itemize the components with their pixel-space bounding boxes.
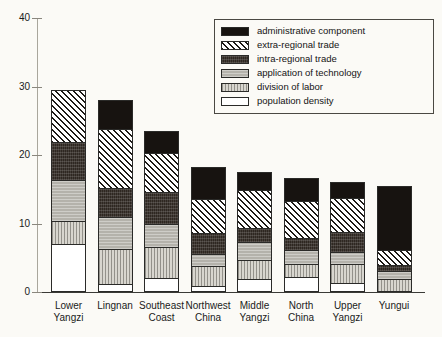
bar-segment-extra[interactable] [378, 251, 411, 266]
legend-label: intra-regional trade [257, 54, 337, 64]
bar-segment-technology[interactable] [192, 255, 225, 267]
legend-swatch-light-grey-lines [221, 83, 249, 92]
bar-segment-labor[interactable] [145, 248, 178, 278]
bar-yungui[interactable] [377, 186, 412, 292]
bar-segment-population[interactable] [145, 279, 178, 291]
y-axis-tick [32, 292, 42, 293]
legend-item-administrative-component[interactable]: administrative component [221, 24, 427, 38]
bar-segment-labor[interactable] [192, 267, 225, 287]
bar-segment-extra[interactable] [238, 191, 271, 229]
bar-upper-yangzi[interactable] [330, 182, 365, 292]
bar-segment-technology[interactable] [285, 251, 318, 266]
bar-northwest-china[interactable] [191, 167, 226, 292]
legend-label: division of labor [257, 82, 323, 92]
bar-north-china[interactable] [284, 178, 319, 292]
bar-segment-extra[interactable] [52, 91, 85, 143]
legend-item-division-of-labor[interactable]: division of labor [221, 80, 427, 94]
bar-segment-technology[interactable] [99, 218, 132, 250]
bar-lower-yangzi[interactable] [51, 90, 86, 292]
stacked-bar-chart: 010203040 LowerYangziLingnanSoutheastCoa… [0, 0, 442, 337]
y-axis-tick-label: 0 [6, 287, 30, 297]
legend-swatch-solid-black [221, 27, 249, 36]
y-axis-tick-label: 30 [6, 82, 30, 92]
bar-segment-admin[interactable] [192, 168, 225, 200]
bar-segment-population[interactable] [192, 287, 225, 291]
legend-swatch-diagonal-hatch [221, 41, 249, 50]
bar-segment-technology[interactable] [145, 225, 178, 248]
bar-segment-extra[interactable] [145, 154, 178, 193]
bar-segment-intra[interactable] [52, 143, 85, 181]
legend-label: application of technology [257, 68, 362, 78]
legend-item-intra-regional-trade[interactable]: intra-regional trade [221, 52, 427, 66]
bar-segment-labor[interactable] [99, 250, 132, 285]
bar-segment-admin[interactable] [378, 187, 411, 251]
bar-segment-population[interactable] [99, 285, 132, 291]
bar-segment-population[interactable] [52, 245, 85, 291]
bar-segment-labor[interactable] [285, 265, 318, 277]
x-axis-line [37, 292, 425, 293]
legend-label: administrative component [257, 26, 365, 36]
bar-segment-labor[interactable] [238, 261, 271, 279]
bar-segment-technology[interactable] [238, 243, 271, 261]
bar-middle-yangzi[interactable] [237, 172, 272, 292]
bar-segment-admin[interactable] [331, 183, 364, 198]
x-axis-label-line2: Yangzi [32, 312, 106, 324]
bar-segment-labor[interactable] [378, 280, 411, 291]
bar-segment-population[interactable] [238, 280, 271, 291]
bar-segment-admin[interactable] [238, 173, 271, 191]
y-axis-tick-label: 20 [6, 150, 30, 160]
bar-segment-extra[interactable] [285, 202, 318, 238]
bar-segment-admin[interactable] [99, 101, 132, 129]
bar-segment-extra[interactable] [192, 200, 225, 234]
bar-lingnan[interactable] [98, 100, 133, 292]
bar-segment-technology[interactable] [52, 181, 85, 222]
legend-swatch-white [221, 97, 249, 106]
bar-segment-population[interactable] [285, 278, 318, 291]
legend-item-application-of-technology[interactable]: application of technology [221, 66, 427, 80]
x-axis-label-line2: Yangzi [311, 312, 385, 324]
bar-segment-extra[interactable] [99, 130, 132, 189]
bar-segment-admin[interactable] [285, 179, 318, 202]
legend-swatch-mid-grey [221, 69, 249, 78]
bar-segment-intra[interactable] [285, 239, 318, 251]
legend-item-population-density[interactable]: population density [221, 94, 427, 108]
legend-swatch-dark-speckle [221, 55, 249, 64]
bar-southeast-coast[interactable] [144, 131, 179, 292]
bar-segment-technology[interactable] [331, 253, 364, 266]
bar-segment-admin[interactable] [145, 132, 178, 154]
y-axis-tick-label: 10 [6, 219, 30, 229]
bar-segment-labor[interactable] [331, 265, 364, 283]
y-axis-tick-label: 40 [6, 13, 30, 23]
bar-segment-intra[interactable] [99, 189, 132, 219]
bar-segment-intra[interactable] [145, 193, 178, 225]
bar-segment-intra[interactable] [192, 234, 225, 254]
bar-segment-intra[interactable] [331, 233, 364, 253]
legend-item-extra-regional-trade[interactable]: extra-regional trade [221, 38, 427, 52]
x-axis-label-yungui: Yungui [357, 300, 431, 312]
bar-segment-population[interactable] [331, 284, 364, 291]
legend-label: population density [257, 96, 334, 106]
legend-label: extra-regional trade [257, 40, 339, 50]
bar-segment-intra[interactable] [238, 229, 271, 243]
chart-legend: administrative componentextra-regional t… [214, 19, 434, 114]
bar-segment-extra[interactable] [331, 199, 364, 233]
x-axis-label-line1: Yungui [379, 300, 410, 311]
bar-segment-technology[interactable] [378, 272, 411, 279]
bar-segment-labor[interactable] [52, 222, 85, 245]
